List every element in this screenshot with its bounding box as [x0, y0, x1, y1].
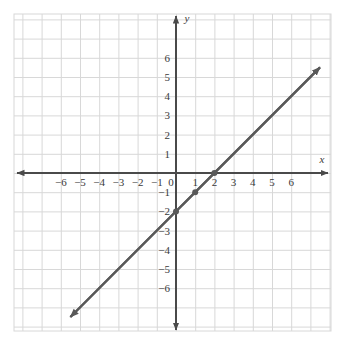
y-tick-label: −5 [158, 263, 170, 275]
y-tick-label: 3 [165, 109, 171, 121]
marked-point [192, 189, 198, 195]
x-axis-name-label: x [319, 153, 325, 165]
y-tick-label: −2 [158, 205, 170, 217]
y-tick-label: 6 [165, 52, 171, 64]
x-tick-label: −5 [74, 176, 86, 188]
y-tick-label: −3 [158, 225, 170, 237]
x-tick-label: 3 [231, 176, 237, 188]
y-tick-label: 5 [165, 71, 171, 83]
x-tick-label: −6 [55, 176, 67, 188]
y-tick-label: −6 [158, 282, 170, 294]
x-tick-label: −3 [113, 176, 125, 188]
y-tick-label: 1 [165, 148, 171, 160]
y-tick-label: −1 [158, 186, 170, 198]
x-tick-label: 4 [250, 176, 256, 188]
x-tick-label: 1 [192, 176, 198, 188]
marked-point [173, 208, 179, 214]
graph-canvas: −6−5−4−3−2−10123456 −6−5−4−3−2−1123456 x… [0, 0, 345, 346]
y-tick-label: −4 [158, 244, 170, 256]
x-tick-label: 6 [288, 176, 294, 188]
y-tick-label: 4 [165, 90, 171, 102]
x-tick-label: −4 [93, 176, 105, 188]
coordinate-plane-graph: −6−5−4−3−2−10123456 −6−5−4−3−2−1123456 x… [0, 0, 345, 346]
x-tick-label: 2 [212, 176, 218, 188]
x-tick-label: −2 [132, 176, 144, 188]
y-tick-label: 2 [165, 129, 171, 141]
x-tick-label: 5 [269, 176, 275, 188]
y-axis-name-label: y [184, 12, 190, 24]
